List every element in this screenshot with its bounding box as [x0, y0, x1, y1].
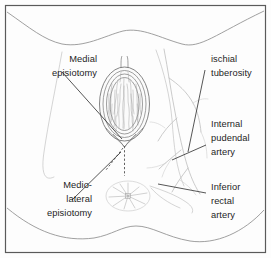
label-internal-pudendal-artery-line2: pudendal: [211, 133, 250, 143]
vulva-outer-outline: [100, 67, 150, 141]
label-mediolateral-episiotomy-line3: episiotomy: [47, 208, 92, 218]
label-internal-pudendal-artery-line1: Internal: [211, 119, 242, 129]
label-mediolateral-episiotomy-line2: lateral: [66, 194, 92, 204]
perineum-diagram: Medial episiotomy Medio- lateral episiot…: [0, 0, 271, 258]
label-ischial-tuberosity-line2: tuberosity: [211, 68, 252, 78]
label-inferior-rectal-artery-line3: artery: [211, 210, 235, 220]
label-inferior-rectal-artery-line2: rectal: [211, 196, 234, 206]
figure-container: Medial episiotomy Medio- lateral episiot…: [0, 0, 271, 258]
label-internal-pudendal-artery-line3: artery: [211, 147, 235, 157]
label-inferior-rectal-artery-line1: Inferior: [211, 182, 240, 192]
label-medial-episiotomy-line1: Medial: [69, 54, 97, 64]
label-medial-episiotomy-line2: episiotomy: [52, 68, 97, 78]
label-mediolateral-episiotomy-line1: Medio-: [63, 180, 92, 190]
label-ischial-tuberosity-line1: ischial: [211, 54, 237, 64]
